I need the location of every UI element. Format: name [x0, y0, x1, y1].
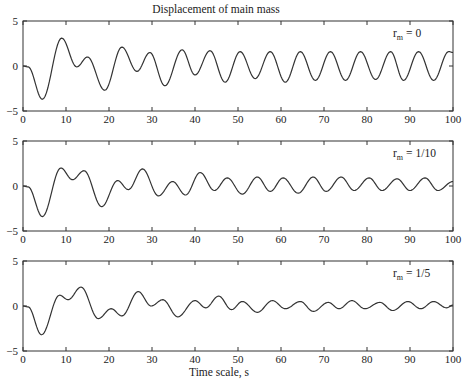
x-tick-label: 20 — [104, 233, 116, 245]
x-tick-label: 90 — [405, 113, 417, 125]
y-tick-label: 5 — [13, 255, 19, 267]
x-axis-label: Time scale, s — [189, 366, 249, 379]
x-tick-label: 40 — [190, 233, 202, 245]
panels: 0102030405060708090100−505rm= 0010203040… — [6, 15, 461, 365]
x-tick-label: 90 — [405, 233, 417, 245]
plot-frame — [23, 261, 453, 351]
chart-title: Displacement of main mass — [152, 3, 280, 16]
x-tick-label: 70 — [319, 113, 331, 125]
x-tick-label: 60 — [276, 113, 288, 125]
panel-1: 0102030405060708090100−505rm= 0 — [6, 15, 461, 125]
panel-annotation: rm= 0 — [393, 27, 421, 42]
y-tick-label: 0 — [13, 300, 19, 312]
x-tick-label: 100 — [445, 353, 462, 365]
panel-3: 0102030405060708090100−505rm= 1/5 — [6, 255, 461, 365]
x-tick-label: 0 — [20, 233, 26, 245]
x-tick-label: 40 — [190, 353, 202, 365]
plot-frame — [23, 21, 453, 111]
x-tick-label: 30 — [147, 353, 159, 365]
panel-2: 0102030405060708090100−505rm= 1/10 — [6, 135, 461, 245]
x-tick-label: 60 — [276, 233, 288, 245]
y-tick-label: −5 — [6, 225, 18, 237]
x-tick-label: 50 — [233, 233, 245, 245]
x-tick-label: 80 — [362, 353, 374, 365]
y-tick-label: 5 — [13, 15, 19, 27]
panel-annotation: rm= 1/10 — [393, 147, 436, 162]
figure: Displacement of main mass 01020304050607… — [0, 0, 469, 380]
x-tick-label: 30 — [147, 233, 159, 245]
x-tick-label: 80 — [362, 233, 374, 245]
x-tick-label: 50 — [233, 353, 245, 365]
x-tick-label: 10 — [61, 113, 73, 125]
displacement-curve — [23, 38, 453, 99]
y-tick-label: 0 — [13, 180, 19, 192]
y-tick-label: 0 — [13, 60, 19, 72]
x-tick-label: 90 — [405, 353, 417, 365]
x-tick-label: 40 — [190, 113, 202, 125]
x-tick-label: 30 — [147, 113, 159, 125]
displacement-curve — [23, 168, 453, 217]
x-tick-label: 50 — [233, 113, 245, 125]
x-tick-label: 100 — [445, 233, 462, 245]
y-tick-label: 5 — [13, 135, 19, 147]
x-tick-label: 70 — [319, 353, 331, 365]
y-tick-label: −5 — [6, 105, 18, 117]
x-tick-label: 70 — [319, 233, 331, 245]
x-tick-label: 20 — [104, 113, 116, 125]
y-tick-label: −5 — [6, 345, 18, 357]
x-tick-label: 10 — [61, 233, 73, 245]
x-tick-label: 100 — [445, 113, 462, 125]
x-tick-label: 0 — [20, 113, 26, 125]
x-tick-label: 80 — [362, 113, 374, 125]
x-tick-label: 0 — [20, 353, 26, 365]
x-tick-label: 60 — [276, 353, 288, 365]
x-tick-label: 10 — [61, 353, 73, 365]
panel-annotation: rm= 1/5 — [393, 267, 430, 282]
displacement-curve — [23, 287, 453, 335]
x-tick-label: 20 — [104, 353, 116, 365]
